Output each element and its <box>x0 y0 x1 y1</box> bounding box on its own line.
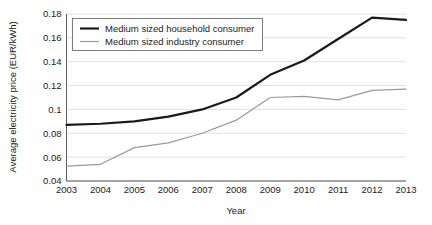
x-axis-tick-label: 2006 <box>158 184 179 195</box>
chart-legend: Medium sized household consumer Medium s… <box>73 19 263 51</box>
y-axis-tick-label: 0.18 <box>43 8 62 19</box>
legend-label-industry: Medium sized industry consumer <box>105 36 244 47</box>
y-axis-tick-label: 0.1 <box>48 104 61 115</box>
x-axis-tick-label: 2009 <box>260 184 281 195</box>
y-axis-tick-label: 0.16 <box>43 32 62 43</box>
x-axis-tick-label: 2004 <box>90 184 111 195</box>
y-axis-tick-label: 0.14 <box>43 56 62 67</box>
y-axis-tick-label: 0.06 <box>43 152 62 163</box>
x-axis-tick-label: 2012 <box>361 184 382 195</box>
x-axis-tick-label: 2010 <box>294 184 315 195</box>
x-axis-tick-label: 2013 <box>395 184 416 195</box>
series-line-industry <box>67 89 407 166</box>
x-axis-tick-labels: 2003200420052006200720082009201020112012… <box>56 184 417 195</box>
y-axis-title: Average electricity price (EUR/kWh) <box>7 21 18 172</box>
x-axis-tick-label: 2005 <box>124 184 145 195</box>
x-axis-title: Year <box>226 205 245 216</box>
legend-label-household: Medium sized household consumer <box>105 23 254 34</box>
y-axis-tick-label: 0.12 <box>43 80 62 91</box>
x-axis-tick-label: 2003 <box>56 184 77 195</box>
y-axis-tick-label: 0.08 <box>43 128 62 139</box>
x-axis-tick-label: 2008 <box>226 184 247 195</box>
x-axis-tick-label: 2007 <box>192 184 213 195</box>
chart-canvas: 0.040.060.080.10.120.140.160.18 20032004… <box>0 0 432 225</box>
x-axis-tick-label: 2011 <box>328 184 348 195</box>
line-chart: 0.040.060.080.10.120.140.160.18 20032004… <box>0 0 432 225</box>
y-axis-tick-labels: 0.040.060.080.10.120.140.160.18 <box>43 8 62 186</box>
